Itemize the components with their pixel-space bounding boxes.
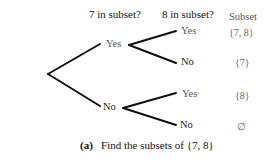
node-7-no: No <box>103 102 116 113</box>
tree-branches <box>0 0 268 162</box>
subset-7-8: {7, 8} <box>229 28 254 38</box>
node-8-yes-b: Yes <box>182 89 197 100</box>
branch-no-no <box>123 108 176 125</box>
subset-8: {8} <box>235 91 250 101</box>
branch-root-yes <box>48 44 100 74</box>
branch-root-no <box>48 74 100 106</box>
branch-yes-yes <box>129 31 176 45</box>
node-8-yes-a: Yes <box>181 26 196 37</box>
subset-empty: ∅ <box>237 122 246 132</box>
caption-tag: (a) <box>80 139 93 151</box>
node-8-no-b: No <box>180 120 193 131</box>
caption: (a) Find the subsets of {7, 8} <box>80 140 214 151</box>
caption-text: Find the subsets of {7, 8} <box>101 139 214 151</box>
header-subset: Subset <box>229 12 257 23</box>
subset-7: {7} <box>235 58 250 68</box>
branch-yes-no <box>129 45 176 63</box>
header-7-in-subset: 7 in subset? <box>89 9 141 20</box>
node-8-no-a: No <box>181 57 194 68</box>
header-8-in-subset: 8 in subset? <box>162 9 214 20</box>
node-7-yes: Yes <box>106 39 121 50</box>
branch-no-yes <box>123 93 176 108</box>
